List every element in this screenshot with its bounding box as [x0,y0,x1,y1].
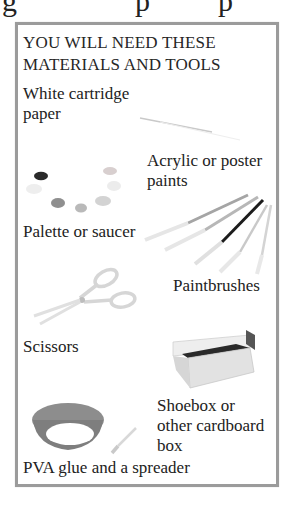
label-line: Palette or saucer [23,222,135,242]
paper-sheet-icon [130,110,260,150]
label-line: Acrylic or poster [147,151,262,171]
item-label-palette: Palette or saucer [23,222,135,242]
item-label-scissors: Scissors [23,337,79,357]
item-label-glue: PVA glue and a spreader [23,458,190,478]
glue-bowl-icon [30,400,145,455]
cropped-text-above: g p p [0,0,295,8]
palette-icon [22,160,132,220]
item-label-paints: Acrylic or poster paints [147,151,262,191]
heading-line-1: YOU WILL NEED THESE [23,32,221,54]
label-line: PVA glue and a spreader [23,458,190,478]
label-line: box [157,436,264,456]
glyph-fragment: p [135,0,150,18]
shoebox-icon [168,330,268,390]
label-line: paper [23,104,129,124]
label-line: Shoebox or [157,396,264,416]
label-line: White cartridge [23,84,129,104]
glyph-fragment: g [2,0,17,18]
item-label-shoebox: Shoebox or other cardboard box [157,396,264,456]
panel-heading: YOU WILL NEED THESE MATERIALS AND TOOLS [23,32,221,76]
label-line: Paintbrushes [173,276,260,296]
label-line: paints [147,171,262,191]
scissors-icon [28,262,138,332]
paint-blobs-icon [26,167,121,213]
item-label-paper: White cartridge paper [23,84,129,124]
label-line: Scissors [23,337,79,357]
heading-line-2: MATERIALS AND TOOLS [23,54,221,76]
spreader-icon [112,428,136,453]
item-label-paintbrushes: Paintbrushes [173,276,260,296]
glyph-fragment: p [218,0,233,18]
label-line: other cardboard [157,416,264,436]
paintbrushes-icon [140,190,280,280]
